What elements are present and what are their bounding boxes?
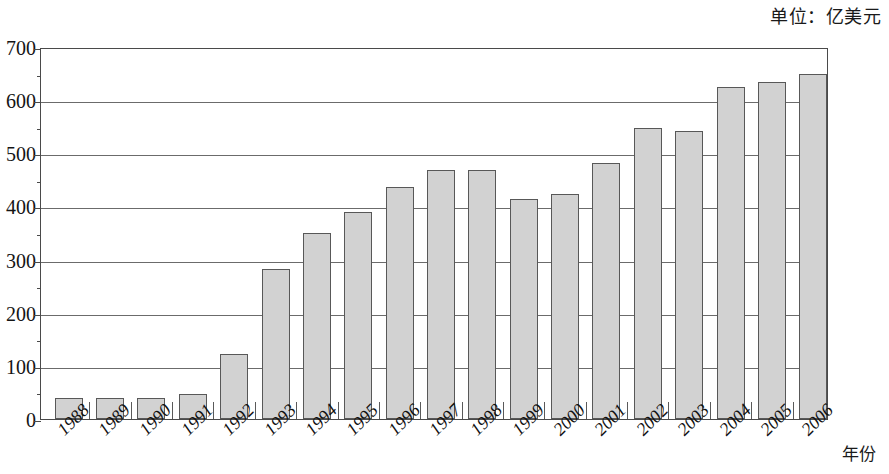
bar-2006 xyxy=(799,74,827,419)
bar-1997 xyxy=(427,170,455,419)
plot-area xyxy=(40,48,828,420)
y-tick-label-700: 700 xyxy=(2,38,36,58)
bar-1996 xyxy=(386,187,414,419)
y-axis-tick-labels: 7006005004003002001000 xyxy=(0,48,36,420)
x-axis-tick-labels: 1988198919901991199219931994199519961997… xyxy=(40,420,828,474)
bar-1995 xyxy=(344,212,372,419)
y-tick-minor-50 xyxy=(37,394,41,395)
y-tick-major-700 xyxy=(34,49,41,50)
y-tick-label-100: 100 xyxy=(2,357,36,377)
y-tick-major-400 xyxy=(34,208,41,209)
y-tick-minor-650 xyxy=(37,76,41,77)
gridline-600 xyxy=(41,102,827,103)
bar-1993 xyxy=(262,269,290,419)
y-tick-major-500 xyxy=(34,155,41,156)
bar-1999 xyxy=(510,199,538,419)
bar-2000 xyxy=(551,194,579,419)
y-tick-minor-450 xyxy=(37,182,41,183)
x-axis-title: 年份 xyxy=(842,440,876,465)
y-tick-minor-150 xyxy=(37,341,41,342)
chart-page: 单位：亿美元 7006005004003002001000 1988198919… xyxy=(0,0,889,474)
bar-2001 xyxy=(592,163,620,419)
y-tick-major-200 xyxy=(34,315,41,316)
bar-2002 xyxy=(634,128,662,419)
bar-2003 xyxy=(675,131,703,419)
y-tick-label-500: 500 xyxy=(2,144,36,164)
y-tick-label-400: 400 xyxy=(2,197,36,217)
bar-1998 xyxy=(468,170,496,419)
y-tick-major-100 xyxy=(34,368,41,369)
y-tick-major-600 xyxy=(34,102,41,103)
bar-1994 xyxy=(303,233,331,419)
bar-2004 xyxy=(717,87,745,419)
y-tick-label-300: 300 xyxy=(2,251,36,271)
y-tick-label-0: 0 xyxy=(2,410,36,430)
y-tick-minor-350 xyxy=(37,235,41,236)
y-tick-major-300 xyxy=(34,262,41,263)
unit-caption: 单位：亿美元 xyxy=(770,2,881,28)
y-tick-minor-250 xyxy=(37,288,41,289)
y-tick-label-600: 600 xyxy=(2,91,36,111)
gridline-500 xyxy=(41,155,827,156)
y-tick-minor-550 xyxy=(37,129,41,130)
bar-2005 xyxy=(758,82,786,419)
y-tick-label-200: 200 xyxy=(2,304,36,324)
